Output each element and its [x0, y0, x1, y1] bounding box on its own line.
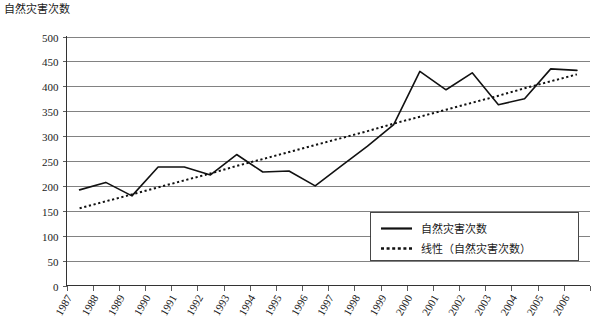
x-tick-label: 1992 [184, 293, 205, 318]
chart-container: 自然灾害次数 050100150200250300350400450500 19… [0, 0, 605, 321]
y-tick-label: 350 [42, 106, 59, 118]
x-tick-label: 1996 [289, 292, 311, 317]
x-tick-label: 2001 [419, 293, 440, 318]
trendline-linear-natural-disasters [80, 74, 577, 208]
x-tick-label: 1998 [341, 292, 363, 317]
chart-legend: 自然灾害次数 线性（自然灾害次数） [371, 213, 579, 261]
x-tick-label: 2006 [550, 292, 572, 317]
x-tick-label: 1987 [53, 292, 75, 317]
y-tick-label: 300 [42, 131, 59, 143]
y-tick-label: 250 [42, 156, 59, 168]
chart-plot: 050100150200250300350400450500 198719881… [0, 0, 605, 321]
x-tick-label: 1989 [105, 292, 127, 317]
y-axis-tick-marks [63, 38, 67, 287]
x-tick-label: 1999 [367, 292, 389, 317]
y-axis-tick-labels: 050100150200250300350400450500 [42, 32, 59, 293]
x-tick-label: 1994 [236, 292, 258, 317]
y-tick-label: 500 [42, 32, 59, 44]
legend-label-trendline: 线性（自然灾害次数） [421, 242, 531, 255]
x-tick-label: 2004 [498, 292, 520, 317]
y-tick-label: 450 [42, 56, 59, 68]
x-tick-label: 1990 [131, 292, 153, 317]
x-tick-label: 1988 [79, 292, 101, 317]
y-tick-label: 50 [48, 256, 60, 268]
y-tick-label: 150 [42, 206, 59, 218]
y-tick-label: 0 [53, 281, 59, 293]
x-tick-label: 1991 [158, 293, 179, 318]
x-tick-label: 2002 [446, 293, 467, 318]
x-tick-label: 1993 [210, 292, 232, 317]
x-tick-label: 2005 [524, 292, 546, 317]
x-axis-tick-labels: 1987198819891990199119921993199419951996… [53, 292, 572, 317]
x-tick-label: 2000 [393, 292, 415, 317]
x-axis-tick-marks [68, 286, 591, 291]
legend-label-series: 自然灾害次数 [421, 222, 487, 235]
x-tick-label: 1997 [315, 292, 337, 317]
y-tick-label: 100 [42, 231, 59, 243]
x-tick-label: 1995 [262, 292, 284, 317]
series-line-natural-disasters [80, 69, 577, 196]
y-tick-label: 200 [42, 181, 59, 193]
x-tick-label: 2003 [472, 292, 494, 317]
y-tick-label: 400 [42, 81, 59, 93]
